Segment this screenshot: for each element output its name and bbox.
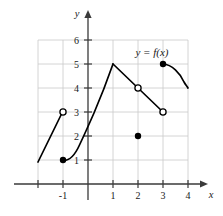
y-tick-label: 4 bbox=[74, 83, 79, 94]
y-tick-label: 1 bbox=[74, 155, 79, 166]
open-point bbox=[60, 109, 66, 115]
curve-branch-right-curve bbox=[163, 64, 188, 88]
graph-canvas: -1 1 2 3 4 1 2 3 4 5 6 x y y = f(x) bbox=[0, 0, 223, 216]
y-axis-arrow bbox=[84, 10, 91, 18]
x-tick-label: -1 bbox=[59, 190, 67, 201]
function-graph-figure: -1 1 2 3 4 1 2 3 4 5 6 x y y = f(x) bbox=[0, 0, 223, 216]
x-tick-label: 3 bbox=[161, 190, 166, 201]
x-tick-label: 1 bbox=[111, 190, 116, 201]
closed-point bbox=[160, 61, 166, 67]
axes bbox=[14, 10, 208, 200]
x-tick-label: 2 bbox=[136, 190, 141, 201]
curve-branch-left-segment bbox=[38, 113, 62, 162]
y-tick-label: 5 bbox=[74, 59, 79, 70]
x-tick-label: 4 bbox=[186, 190, 191, 201]
x-axis-label: x bbox=[208, 189, 214, 200]
closed-point bbox=[135, 133, 141, 139]
x-axis-arrow bbox=[200, 180, 208, 187]
function-equation-label: y = f(x) bbox=[134, 46, 168, 59]
x-tick-labels: -1 1 2 3 4 bbox=[59, 190, 191, 201]
y-tick-label: 2 bbox=[74, 131, 79, 142]
open-point bbox=[135, 85, 141, 91]
y-tick-label: 3 bbox=[74, 107, 79, 118]
open-point bbox=[160, 109, 166, 115]
y-tick-label: 6 bbox=[74, 35, 79, 46]
y-axis-label: y bbox=[74, 8, 80, 19]
closed-point bbox=[60, 157, 66, 163]
